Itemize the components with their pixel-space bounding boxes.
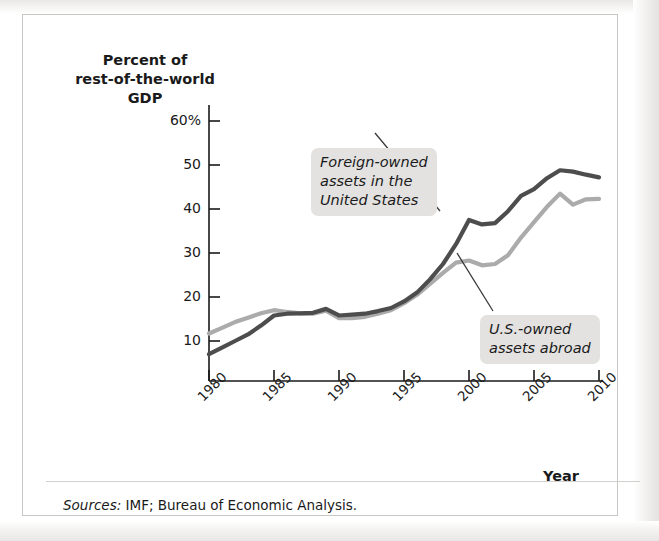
page-shadow-top: [0, 0, 659, 14]
y-axis-tick-label: 30: [147, 244, 201, 260]
y-axis-tick-label: 20: [147, 288, 201, 304]
figure-card: Percent of rest-of-the-world GDP Year 10…: [22, 14, 618, 516]
x-axis-title: Year: [543, 467, 613, 486]
source-note-label: Sources:: [63, 497, 121, 513]
y-axis-tick-label: 60%: [147, 112, 201, 128]
source-note-text: IMF; Bureau of Economic Analysis.: [121, 497, 357, 513]
page-shadow-right: [633, 0, 659, 541]
callout-foreign-owned-assets: Foreign-owned assets in the United State…: [311, 148, 437, 216]
y-axis-tick-label: 10: [147, 332, 201, 348]
callout-us-owned-assets: U.S.-owned assets abroad: [480, 315, 600, 364]
figure-root: Percent of rest-of-the-world GDP Year 10…: [0, 0, 659, 541]
y-axis-tick-label: 50: [147, 156, 201, 172]
page-shadow-bottom: [0, 521, 659, 541]
y-axis-title: Percent of rest-of-the-world GDP: [61, 51, 229, 108]
source-divider: [46, 481, 640, 482]
y-axis-tick-label: 40: [147, 200, 201, 216]
source-note: Sources: IMF; Bureau of Economic Analysi…: [63, 497, 357, 513]
